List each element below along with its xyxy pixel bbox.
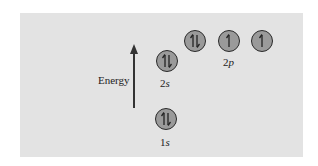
energy-axis-label: Energy: [98, 75, 130, 86]
orbital-2p-2: [218, 30, 240, 52]
label-1s: 1s: [160, 137, 170, 148]
energy-arrow-icon: [128, 44, 140, 108]
single-electron-arrow-icon: [252, 31, 272, 51]
label-2s: 2s: [160, 78, 170, 89]
label-2p: 2p: [223, 57, 234, 68]
orbital-2p-1: [184, 30, 206, 52]
single-electron-arrow-icon: [219, 31, 239, 51]
paired-electron-arrows-icon: [185, 31, 205, 51]
paired-electron-arrows-icon: [157, 51, 177, 71]
orbital-2p-3: [251, 30, 273, 52]
orbital-2s: [156, 50, 178, 72]
orbital-1s: [155, 108, 177, 130]
paired-electron-arrows-icon: [156, 109, 176, 129]
